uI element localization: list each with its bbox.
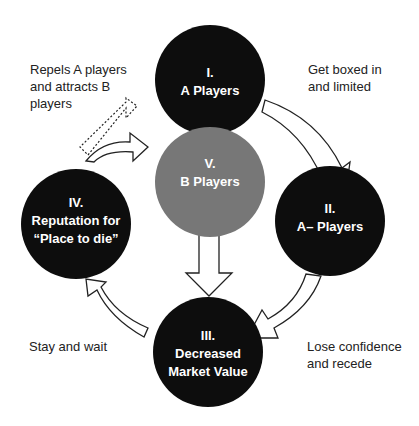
node-I-label: A Players	[181, 83, 240, 98]
node-V-label: B Players	[180, 174, 239, 189]
node-IV-label-line1: Reputation for	[32, 213, 121, 228]
arrow-II-to-III	[247, 274, 321, 338]
node-I-a-players: I. A Players	[155, 25, 265, 135]
node-III-label-line2: Market Value	[168, 364, 248, 379]
node-III-numeral: III.	[201, 328, 215, 343]
node-III-label-line1: Decreased	[175, 346, 241, 361]
label-stay-and-wait: Stay and wait	[29, 338, 107, 355]
node-I-numeral: I.	[206, 65, 213, 80]
label-lose-confidence: Lose confidence and recede	[307, 338, 402, 372]
node-IV-label-line2: “Place to die”	[33, 231, 118, 246]
arrow-IV-to-V	[86, 133, 148, 162]
node-II-numeral: II.	[325, 201, 336, 216]
arrow-V-to-III	[186, 228, 232, 296]
node-IV-numeral: IV.	[69, 195, 84, 210]
label-get-boxed-in: Get boxed in and limited	[308, 61, 382, 95]
node-V-numeral: V.	[204, 156, 215, 171]
label-repels-a-attracts-b: Repels A players and attracts B players	[30, 61, 127, 112]
node-IV-reputation: IV. Reputation for “Place to die”	[21, 169, 131, 279]
node-II-label: A– Players	[297, 219, 364, 234]
arrow-III-to-IV	[86, 279, 148, 337]
node-II-a-minus-players: II. A– Players	[275, 166, 385, 276]
node-V-b-players: V. B Players	[155, 127, 265, 237]
node-III-decreased-market-value: III. Decreased Market Value	[153, 297, 263, 407]
